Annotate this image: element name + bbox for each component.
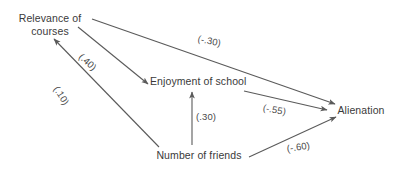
arrow-friends-to-relevance [54,39,159,147]
node-alienation: Alienation [330,104,392,117]
node-number-of-friends: Number of friends [153,149,245,162]
arrow-relevance-to-alienation [92,19,335,104]
path-diagram: Relevance of courses Enjoyment of school… [0,0,396,169]
coefficient-friends-to-enjoyment: (.30) [196,111,216,122]
node-enjoyment-of-school: Enjoyment of school [150,75,246,88]
node-relevance-of-courses: Relevance of courses [8,12,92,38]
